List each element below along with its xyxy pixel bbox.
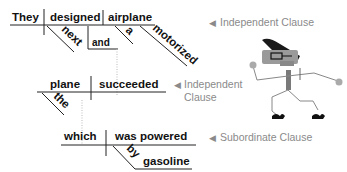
left-leg [272,90,288,116]
clause2-label-line2: Clause [184,91,217,103]
cartoon-figure-illustration [250,39,343,119]
clause1-label: Independent Clause [220,16,314,28]
right-hand [336,79,343,86]
clause2-subject: plane [50,78,80,90]
prepositional-object-gasoline: gasoline [143,155,190,167]
left-hand [250,62,257,69]
modifier-a: a [124,24,137,37]
clause1-subject: They [12,11,39,23]
left-shoe-icon [272,114,285,119]
right-shoe-icon [312,114,325,119]
right-leg [288,90,318,110]
clause2-verb: succeeded [99,78,158,90]
clause1-verb: designed [50,11,100,23]
conjunction-and: and [92,37,110,48]
clause3-label-arrow: ◀ [209,133,216,143]
clause1-label-arrow: ◀ [209,18,216,28]
left-arm [253,66,288,80]
body-torso [286,70,291,90]
modifier-the: the [52,90,73,111]
modifier-motorized: motorized [151,21,200,66]
clause2-label-line1: Independent [184,78,242,90]
clause1-object: airplane [108,11,152,23]
clause2-label-arrow: ◀ [174,80,181,90]
jaw-icon [280,61,294,66]
sentence-diagram: They designed airplane next and a motori… [0,0,347,172]
clause3-verb: was powered [114,130,187,142]
right-arm [288,73,338,81]
clause3-label: Subordinate Clause [220,131,312,143]
modifier-next: next [60,23,85,48]
clause3-subject: which [63,130,97,142]
